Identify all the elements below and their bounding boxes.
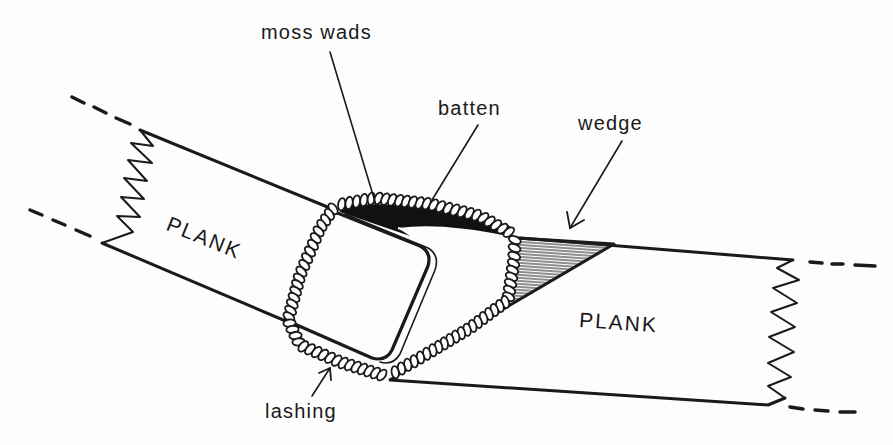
wedge-arrow	[570, 141, 622, 228]
moss-wads-leader	[330, 52, 376, 205]
wedge-shape	[505, 238, 614, 308]
plank-joint-diagram: moss wads batten wedge lashing PLANK PLA…	[0, 0, 893, 445]
label-wedge: wedge	[578, 112, 643, 135]
left-continuation-dashes	[30, 97, 130, 236]
label-lashing: lashing	[265, 400, 337, 423]
label-batten: batten	[438, 97, 501, 120]
label-moss-wads: moss wads	[261, 21, 372, 44]
left-break-zigzag	[102, 130, 153, 243]
left-plank	[30, 97, 330, 322]
right-break-zigzag	[768, 260, 799, 398]
right-continuation-dashes	[790, 262, 875, 412]
diagram-drawing	[0, 0, 893, 445]
batten-leader	[432, 125, 478, 200]
